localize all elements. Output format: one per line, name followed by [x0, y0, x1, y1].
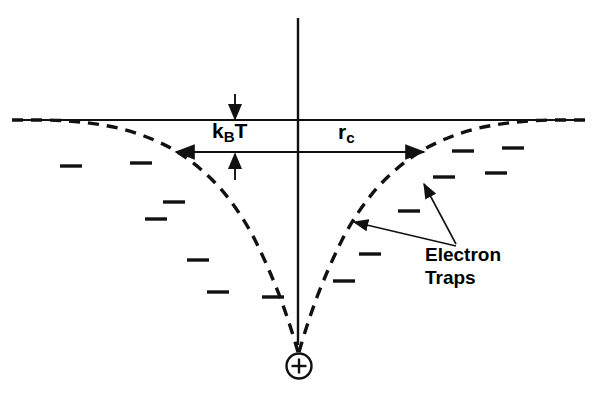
electron-traps-arrow-lower [354, 222, 456, 246]
positive-charge-symbol [287, 354, 312, 379]
electron-traps-line-2: Traps [425, 268, 501, 288]
potential-well-diagram [0, 0, 597, 399]
figure-container: kBT rc ElectronTraps [0, 0, 597, 399]
electron-traps-label: ElectronTraps [425, 245, 501, 288]
kbt-label: kBT [212, 120, 247, 145]
rc-symbol-r: r [338, 120, 346, 143]
kbt-subscript-b: B [224, 128, 235, 145]
rc-label: rc [338, 121, 355, 146]
kbt-symbol-k: k [212, 119, 224, 142]
potential-curve-left [12, 120, 298, 352]
electron-traps-line-1: Electron [425, 244, 501, 265]
electron-traps-arrow-upper [424, 184, 456, 244]
kbt-symbol-t: T [235, 119, 248, 142]
rc-subscript-c: c [346, 129, 354, 146]
potential-curve-right [299, 120, 585, 352]
